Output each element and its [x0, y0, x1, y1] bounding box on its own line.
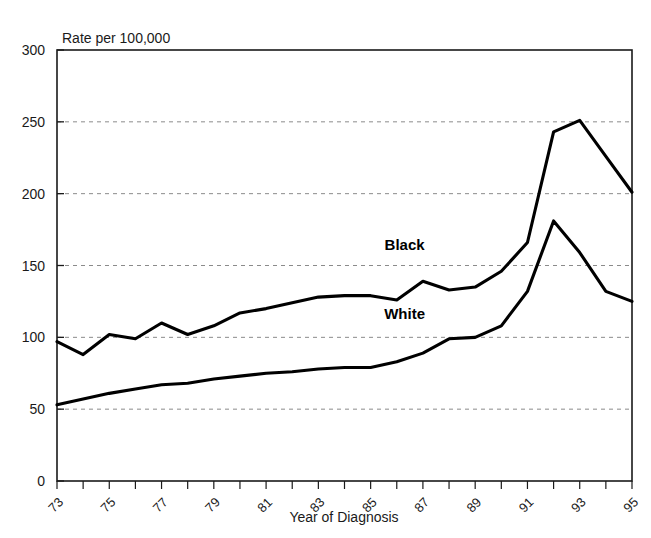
- series-line-white: [57, 221, 632, 405]
- series-label-white: White: [384, 305, 425, 322]
- x-axis-title: Year of Diagnosis: [289, 509, 398, 525]
- series-line-black: [57, 120, 632, 354]
- x-tick-label-89: 89: [463, 495, 484, 516]
- y-tick-label-50: 50: [29, 401, 45, 417]
- x-tick-label-73: 73: [45, 495, 66, 516]
- line-chart: 050100150200250300 737577798183858789919…: [0, 0, 651, 538]
- x-tick-label-79: 79: [202, 495, 223, 516]
- x-tick-label-95: 95: [620, 495, 641, 516]
- y-tick-label-250: 250: [22, 114, 46, 130]
- x-tick-label-87: 87: [411, 495, 432, 516]
- x-tick-label-81: 81: [254, 495, 275, 516]
- series-label-black: Black: [385, 236, 426, 253]
- x-tick-label-75: 75: [98, 495, 119, 516]
- data-series: [57, 120, 632, 404]
- y-tick-label-300: 300: [22, 42, 46, 58]
- y-tick-label-0: 0: [37, 473, 45, 489]
- x-tick-label-77: 77: [150, 495, 171, 516]
- series-labels: BlackWhite: [384, 236, 425, 322]
- chart-container: 050100150200250300 737577798183858789919…: [0, 0, 651, 538]
- x-tick-label-91: 91: [516, 495, 537, 516]
- rate-unit-label: Rate per 100,000: [62, 30, 170, 46]
- x-tick-label-93: 93: [568, 495, 589, 516]
- y-tick-label-150: 150: [22, 258, 46, 274]
- y-tick-label-200: 200: [22, 186, 46, 202]
- y-tick-label-100: 100: [22, 329, 46, 345]
